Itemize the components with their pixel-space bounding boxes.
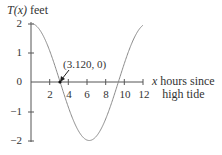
x-axis-label-line1: hours since: [160, 74, 214, 88]
y-tick-label-2: 2: [4, 18, 22, 29]
annotation-arrow: [60, 70, 69, 82]
y-tick-label-neg1: −1: [4, 106, 22, 117]
x-tick-label-4: 4: [61, 89, 77, 100]
y-tick-label-neg2: −2: [4, 135, 22, 146]
y-tick-label-0: 0: [4, 76, 22, 87]
x-axis-label-line2: high tide: [162, 87, 204, 101]
x-tick-label-10: 10: [117, 89, 133, 100]
y-tick-label-1: 1: [4, 47, 22, 58]
x-tick-label-8: 8: [98, 89, 114, 100]
x-tick-label-2: 2: [42, 89, 58, 100]
x-axis-label: x hours since high tide: [152, 75, 215, 101]
x-tick-label-6: 6: [79, 89, 95, 100]
x-tick-label-12: 12: [136, 89, 152, 100]
zero-annotation: (3.120, 0): [63, 59, 106, 70]
zero-point-marker: [58, 80, 61, 83]
y-axis-label: T(x) feet: [7, 4, 48, 16]
